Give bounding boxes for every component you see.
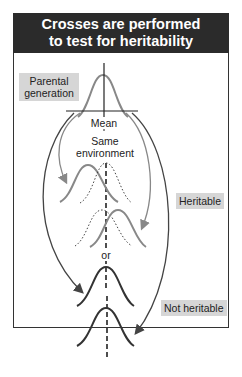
heritable-curve-shifted-left [60, 163, 132, 203]
diagram-graphics [0, 0, 242, 377]
same-env-line-2: environment [76, 147, 134, 159]
parental-generation-label: Parental generation [19, 73, 79, 101]
same-env-line-1: Same [91, 135, 118, 147]
parental-label-line-1: Parental [29, 75, 68, 87]
same-environment-label: Same environment [72, 135, 138, 159]
not-heritable-curve-2 [77, 308, 134, 346]
parental-label-line-2: generation [24, 87, 74, 99]
not-heritable-label: Not heritable [161, 300, 227, 316]
heritable-label: Heritable [176, 193, 224, 209]
heritable-curve-shifted-right [75, 210, 146, 247]
or-label: or [99, 249, 113, 261]
mean-label: Mean [89, 117, 119, 129]
